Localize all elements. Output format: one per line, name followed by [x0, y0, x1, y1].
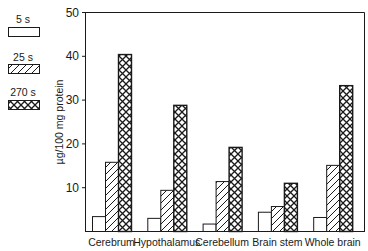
bar-270s [174, 105, 187, 231]
x-tick-label: Cerebrum [88, 236, 135, 248]
legend-item-270s: 270 s [9, 86, 40, 110]
legend-swatch-open [9, 28, 40, 37]
legend-item-25s: 25 s [9, 51, 40, 74]
bar-270s [119, 55, 132, 232]
y-tick-label: 30 [66, 93, 80, 107]
legend-label: 270 s [10, 86, 36, 98]
legend-swatch-cross [9, 101, 40, 110]
bar-25s [327, 165, 340, 231]
y-tick-label: 40 [66, 49, 80, 63]
x-tick-label: Whole brain [305, 236, 361, 248]
bar-5s [258, 212, 271, 231]
bar-25s [216, 182, 229, 232]
y-axis-ticks: 1020304050 [66, 6, 86, 195]
legend-label: 25 s [13, 51, 33, 63]
y-tick-label: 20 [66, 137, 80, 151]
bar-270s [229, 147, 242, 231]
bar-270s [340, 86, 353, 232]
bar-25s [161, 190, 174, 231]
bar-5s [93, 217, 106, 232]
legend-swatch-diagonal [9, 65, 40, 74]
x-tick-label: Cerebellum [195, 236, 249, 248]
y-axis-label: µg/100 mg protein [53, 79, 65, 164]
legend-label: 5 s [16, 13, 30, 25]
bar-5s [203, 224, 216, 231]
bar-25s [106, 162, 119, 231]
bars [93, 55, 353, 232]
bar-270s [284, 183, 297, 231]
bar-chart: 5 s 25 s 270 s µg/100 mg protein 1020304… [0, 0, 368, 251]
y-tick-label: 10 [66, 181, 80, 195]
bar-25s [271, 207, 284, 232]
legend: 5 s 25 s 270 s [9, 13, 40, 110]
x-tick-label: Brain stem [252, 236, 302, 248]
bar-5s [314, 217, 327, 231]
legend-item-5s: 5 s [9, 13, 40, 37]
bar-5s [148, 218, 161, 231]
x-axis-labels: CerebrumHypothalamusCerebellumBrain stem… [88, 236, 361, 248]
x-tick-label: Hypothalamus [133, 236, 200, 248]
y-tick-label: 50 [66, 6, 80, 20]
